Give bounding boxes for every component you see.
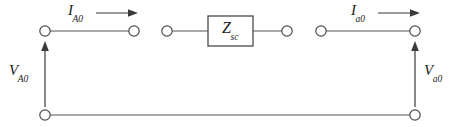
label-voltage-right: Va0 [424, 62, 443, 82]
label-current-right: Ia0 [351, 2, 366, 22]
label-voltage-right-subscript: a0 [433, 74, 443, 84]
terminal-top-left [40, 26, 50, 36]
label-impedance-subscript: sc [230, 32, 238, 42]
terminal-top-right [410, 26, 420, 36]
voltage-arrow-left [41, 41, 49, 107]
current-arrow-left [96, 9, 138, 17]
terminal-top-left-inner [129, 26, 139, 36]
label-current-left: IA0 [68, 2, 84, 22]
terminal-top-right-inner [316, 26, 326, 36]
current-arrow-right [378, 9, 420, 17]
terminal-bottom-right [410, 110, 420, 120]
label-current-right-subscript: a0 [356, 14, 366, 24]
terminal-bottom-left [40, 110, 50, 120]
label-impedance: Zsc [208, 20, 253, 40]
label-voltage-right-base: V [424, 62, 433, 78]
circuit-diagram: IA0 Ia0 VA0 Va0 Zsc [0, 0, 459, 127]
terminal-box-right [282, 26, 292, 36]
voltage-arrow-right [411, 41, 419, 107]
label-voltage-left-subscript: A0 [18, 74, 29, 84]
label-current-left-subscript: A0 [73, 14, 84, 24]
terminal-box-left [162, 26, 172, 36]
label-voltage-left: VA0 [9, 62, 29, 82]
label-voltage-left-base: V [9, 62, 18, 78]
